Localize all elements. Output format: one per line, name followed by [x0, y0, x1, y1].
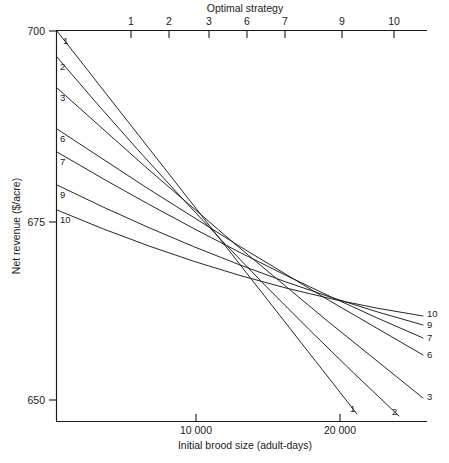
curve-set	[57, 31, 423, 416]
curve-label-right-6: 6	[427, 349, 432, 360]
curve-9	[57, 185, 423, 325]
curve-3	[57, 88, 423, 398]
x-axis-tick-label: 10 000	[180, 424, 212, 436]
curve-label-right-1: 1	[350, 403, 355, 414]
y-axis-tick-label: 675	[27, 216, 45, 228]
curve-label-right-9: 9	[427, 319, 432, 330]
x-axis-tick-label: 20 000	[324, 424, 356, 436]
top-axis-tick-label: 7	[282, 15, 288, 27]
curve-labels-right: 1 2 3 6 7 9 10	[350, 308, 438, 417]
top-axis-title: Optimal strategy	[207, 2, 284, 14]
top-axis-tick-label: 9	[339, 15, 345, 27]
curve-2	[57, 57, 399, 416]
top-axis: 1 2 3 6 7 9 10 Optimal strategy	[56, 2, 427, 38]
curve-labels-left: 1 2 3 6 7 9 10	[60, 35, 71, 225]
curve-label-right-3: 3	[427, 391, 432, 402]
y-axis-title: Net revenue ($/acre)	[10, 178, 22, 274]
curve-label-left-2: 2	[60, 61, 65, 72]
curve-label-left-1: 1	[63, 35, 68, 46]
curve-label-left-3: 3	[60, 92, 65, 103]
figure-container: 1 2 3 6 7 9 10 Optimal strategy 700 675 …	[0, 0, 449, 463]
x-axis: 10 000 20 000 Initial brood size (adult-…	[56, 414, 427, 451]
top-axis-tick-label: 3	[206, 15, 212, 27]
y-axis: 700 675 650 Net revenue ($/acre)	[10, 25, 57, 421]
curve-10	[57, 210, 423, 316]
curve-1	[57, 31, 357, 414]
top-axis-tick-label: 2	[166, 15, 172, 27]
curve-label-left-7: 7	[60, 156, 65, 167]
top-axis-tick-label: 6	[244, 15, 250, 27]
curve-label-right-10: 10	[427, 308, 438, 319]
curve-label-right-2: 2	[392, 406, 397, 417]
curve-label-right-7: 7	[427, 332, 432, 343]
curve-label-left-9: 9	[60, 189, 65, 200]
curve-6	[57, 129, 423, 355]
y-axis-tick-label: 700	[27, 25, 45, 37]
x-axis-title: Initial brood size (adult-days)	[178, 439, 312, 451]
curve-label-left-10: 10	[60, 214, 71, 225]
curve-7	[57, 152, 423, 338]
top-axis-tick-label: 10	[388, 15, 400, 27]
curve-label-left-6: 6	[60, 133, 65, 144]
top-axis-tick-label: 1	[128, 15, 134, 27]
chart-svg: 1 2 3 6 7 9 10 Optimal strategy 700 675 …	[0, 0, 449, 463]
y-axis-tick-label: 650	[27, 394, 45, 406]
